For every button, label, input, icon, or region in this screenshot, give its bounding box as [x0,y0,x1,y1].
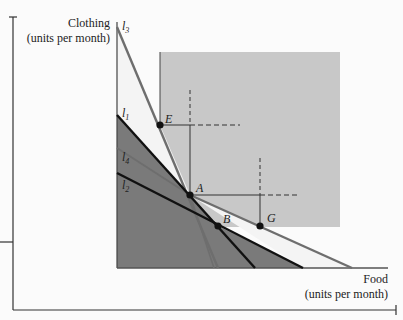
diagram-canvas: Clothing (units per month) Food (units p… [0,0,403,320]
label-i1: l1 [122,106,129,125]
y-axis-units: (units per month) [10,31,110,45]
label-i2: l2 [122,178,129,197]
x-axis-units: (units per month) [288,287,388,301]
label-point-b: B [223,212,230,226]
label-point-g: G [267,211,276,225]
label-i3: l3 [122,19,129,38]
label-i4: l4 [122,150,129,169]
point-e [156,121,163,128]
point-a [186,191,193,198]
label-point-e: E [165,112,172,126]
x-axis-label: Food [300,272,388,286]
point-b [214,222,221,229]
y-axis-label: Clothing [30,16,110,30]
point-g [256,222,263,229]
label-point-a: A [196,181,203,195]
